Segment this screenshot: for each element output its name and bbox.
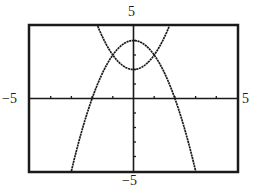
- y-max-label: 5: [128, 5, 135, 19]
- y-min-label: −5: [122, 174, 137, 188]
- graph-plot: [0, 0, 255, 189]
- axes: [30, 26, 237, 171]
- x-min-label: −5: [2, 92, 17, 106]
- x-max-label: 5: [242, 92, 249, 106]
